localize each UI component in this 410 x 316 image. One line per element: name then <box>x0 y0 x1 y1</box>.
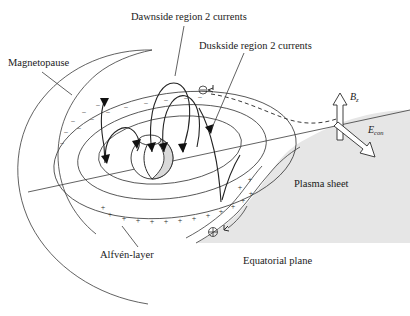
diagram-canvas: − − − − − − − − − − − − − + + + + + + + … <box>0 0 410 316</box>
magnetosphere-diagram: − − − − − − − − − − − − − + + + + + + + … <box>0 0 410 316</box>
svg-text:+: + <box>101 203 106 212</box>
svg-text:−: − <box>144 99 149 108</box>
magnetopause-boundary <box>18 50 152 304</box>
svg-text:+: + <box>192 214 197 223</box>
svg-text:+: + <box>231 202 236 211</box>
svg-text:−: − <box>96 101 101 110</box>
bz-vector-label: Bz <box>350 91 359 103</box>
svg-text:−: − <box>106 108 111 117</box>
svg-text:−: − <box>90 115 95 124</box>
svg-text:−: − <box>124 103 129 112</box>
svg-text:−: − <box>71 117 76 126</box>
svg-text:+: + <box>136 216 141 225</box>
svg-text:+: + <box>164 217 169 226</box>
svg-text:−: − <box>82 108 87 117</box>
convection-dashed-curve <box>211 94 344 123</box>
svg-text:−: − <box>77 124 82 133</box>
duskside-currents-label: Duskside region 2 currents <box>199 40 312 51</box>
magnetopause-label: Magnetopause <box>8 57 70 68</box>
svg-text:+: + <box>150 217 155 226</box>
alfven-layer-label: Alfvén-layer <box>100 249 154 260</box>
svg-text:+: + <box>122 214 127 223</box>
dawnside-currents-label: Dawnside region 2 currents <box>131 11 247 22</box>
svg-text:−: − <box>60 139 65 148</box>
svg-text:+: + <box>108 210 113 219</box>
svg-text:−: − <box>164 96 169 105</box>
plasma-sheet-label: Plasma sheet <box>294 178 349 189</box>
svg-text:+: + <box>238 183 243 192</box>
svg-text:+: + <box>206 211 211 220</box>
svg-text:+: + <box>178 216 183 225</box>
svg-text:−: − <box>64 128 69 137</box>
svg-text:−: − <box>198 93 203 102</box>
equatorial-plane-label: Equatorial plane <box>243 255 312 266</box>
region2-current-arcs <box>100 83 240 202</box>
